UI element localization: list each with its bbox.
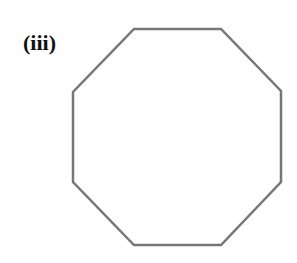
octagon-shape [0, 0, 297, 263]
octagon-outline [73, 29, 281, 245]
